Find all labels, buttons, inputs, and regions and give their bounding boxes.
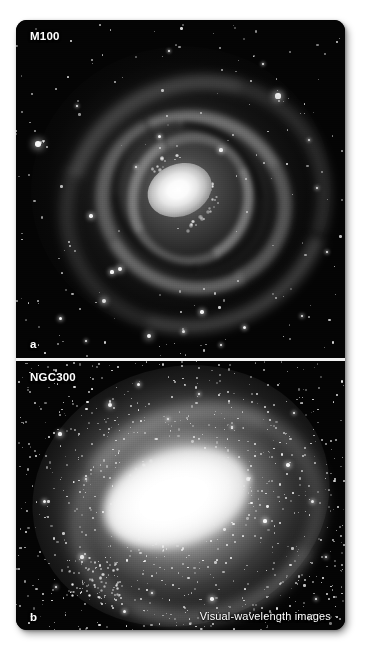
label-dot-marker	[70, 40, 72, 42]
image-grain-b	[16, 361, 345, 630]
visual-wavelength-caption: Visual-wavelength images	[200, 610, 331, 622]
panel-letter-a: a	[30, 338, 37, 350]
panel-divider	[16, 358, 345, 361]
caption-dot-marker	[336, 616, 338, 618]
object-label-m100: M100	[30, 30, 60, 42]
object-label-ngc300: NGC300	[30, 371, 76, 383]
panel-b-ngc300: NGC300 b Visual-wavelength images	[16, 361, 345, 630]
image-grain-a	[16, 20, 345, 358]
panel-letter-b: b	[30, 611, 37, 623]
panel-a-m100: M100 a	[16, 20, 345, 358]
figure-plate: M100 a NGC300 b Visual-wavelength images	[16, 20, 345, 630]
